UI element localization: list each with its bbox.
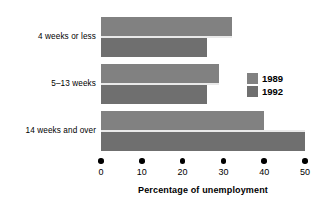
legend-item-1989: 1989 (247, 72, 283, 85)
x-axis-tick-dot (302, 158, 308, 164)
bar-1992-4-weeks-or-less (101, 38, 207, 57)
x-axis-tick-label: 40 (259, 167, 269, 177)
legend: 1989 1992 (247, 72, 283, 98)
bar-1989-4-weeks-or-less (101, 17, 232, 36)
bar-1989-14-weeks-and-over (101, 111, 264, 130)
bar-group-5-13-weeks (101, 64, 219, 104)
x-axis-tick-label: 10 (137, 167, 147, 177)
bar-1989-5-13-weeks (101, 64, 219, 83)
x-axis-tick-label: 20 (178, 167, 188, 177)
x-axis-tick-dot (261, 158, 267, 164)
x-axis-title: Percentage of unemployment (101, 185, 305, 195)
bar-group-4-weeks-or-less (101, 17, 232, 57)
bar-chart: 4 weeks or less 5–13 weeks 14 weeks and … (0, 0, 326, 207)
legend-swatch-icon-1992 (247, 86, 258, 97)
x-axis-tick-label: 0 (98, 167, 103, 177)
x-axis-tick-dot (180, 158, 186, 164)
plot-area: 01020304050 Percentage of unemployment (0, 0, 326, 207)
x-axis-tick-dot (98, 158, 104, 164)
legend-label-1992: 1992 (262, 87, 283, 97)
x-axis-tick-marks (101, 157, 305, 167)
legend-label-1989: 1989 (262, 74, 283, 84)
legend-item-1992: 1992 (247, 85, 283, 98)
bar-1992-5-13-weeks (101, 85, 207, 104)
x-axis-tick-labels: 01020304050 (101, 167, 305, 181)
x-axis-tick-label: 30 (218, 167, 228, 177)
x-axis-tick-dot (139, 158, 145, 164)
legend-swatch-icon-1989 (247, 73, 258, 84)
x-axis-tick-label: 50 (300, 167, 310, 177)
bar-group-14-weeks-and-over (101, 111, 305, 151)
bar-1992-14-weeks-and-over (101, 132, 305, 151)
x-axis-tick-dot (221, 158, 227, 164)
